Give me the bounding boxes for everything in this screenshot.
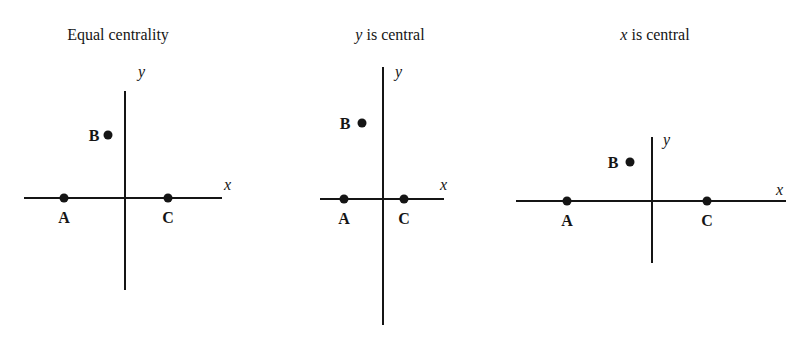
- point-c: [164, 194, 173, 203]
- panel-title: x is central: [619, 26, 690, 43]
- panel-x-central: x is central y x A B C: [516, 26, 786, 263]
- panel-title: Equal centrality: [67, 26, 169, 44]
- point-b: [626, 158, 635, 167]
- point-c: [400, 195, 409, 204]
- panel-equal-centrality: Equal centrality y x A B C: [24, 26, 231, 290]
- point-a: [60, 194, 69, 203]
- point-a-label: A: [58, 209, 70, 226]
- point-b: [104, 131, 113, 140]
- point-a: [563, 197, 572, 206]
- point-b-label: B: [340, 115, 351, 132]
- y-axis-label: y: [661, 131, 671, 149]
- point-c: [703, 197, 712, 206]
- point-a-label: A: [561, 212, 573, 229]
- point-b: [358, 119, 367, 128]
- point-c-label: C: [398, 210, 410, 227]
- point-b-label: B: [608, 154, 619, 171]
- point-a: [340, 195, 349, 204]
- y-axis-label: y: [393, 63, 403, 81]
- panel-title: y is central: [353, 26, 425, 44]
- point-a-label: A: [338, 210, 350, 227]
- y-axis-label: y: [136, 63, 146, 81]
- point-b-label: B: [89, 127, 100, 144]
- point-c-label: C: [701, 212, 713, 229]
- panel-y-central: y is central y x A B C: [320, 26, 447, 325]
- x-axis-label: x: [223, 176, 231, 193]
- centrality-diagram: Equal centrality y x A B C y is central …: [0, 0, 809, 343]
- point-c-label: C: [162, 209, 174, 226]
- x-axis-label: x: [775, 181, 783, 198]
- x-axis-label: x: [439, 176, 447, 193]
